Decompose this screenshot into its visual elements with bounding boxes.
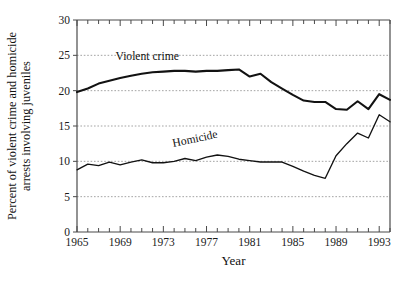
y-axis-title-line2: arrests involving juveniles [19,61,33,191]
x-tick-label-1977: 1977 [195,236,218,248]
x-axis-title: Year [222,253,247,268]
x-tick-label-1989: 1989 [325,236,348,248]
y-tick-label-15: 15 [59,120,71,132]
y-tick-label-25: 25 [59,49,71,61]
y-tick-label-30: 30 [59,14,71,26]
series-line-homicide [77,115,390,179]
series-annotation-homicide: Homicide [171,128,218,150]
line-chart: 0510152025301965196919731977198119851989… [0,0,408,283]
y-axis-title-line1: Percent of violent crime and homicide [5,31,19,220]
x-tick-label-1985: 1985 [281,236,304,248]
x-tick-label-1981: 1981 [238,236,261,248]
y-tick-label-5: 5 [64,191,70,203]
y-tick-label-20: 20 [59,85,71,97]
x-tick-label-1969: 1969 [109,236,132,248]
x-tick-label-1965: 1965 [66,236,89,248]
x-tick-label-1973: 1973 [152,236,175,248]
chart-figure: 0510152025301965196919731977198119851989… [0,0,408,283]
series-line-violent-crime [77,69,390,109]
x-tick-label-1993: 1993 [368,236,391,248]
series-annotation-violent-crime: Violent crime [115,50,178,63]
y-tick-label-10: 10 [59,155,71,167]
